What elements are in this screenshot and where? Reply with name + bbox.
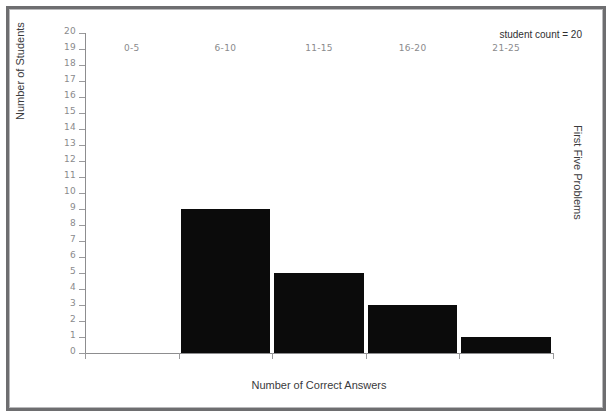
x-axis-category-label: 21-25 — [492, 43, 520, 53]
x-axis-category-label: 11-15 — [305, 43, 333, 53]
x-axis-category-label: 6-10 — [215, 43, 237, 53]
x-axis-tick — [179, 353, 180, 359]
y-axis-tick — [79, 177, 85, 178]
y-axis-tick — [79, 321, 85, 322]
y-axis-tick — [79, 241, 85, 242]
x-axis-line — [85, 353, 554, 354]
y-axis-tick — [79, 97, 85, 98]
y-axis-tick-label: 1 — [70, 330, 76, 340]
x-axis-category-label: 16-20 — [399, 43, 427, 53]
y-axis-tick-label: 0 — [70, 346, 76, 356]
bar — [368, 305, 458, 353]
y-axis-tick — [79, 209, 85, 210]
y-axis-tick — [79, 289, 85, 290]
y-axis-tick-label: 5 — [70, 266, 76, 276]
y-axis-tick — [79, 337, 85, 338]
y-axis-tick-label: 10 — [64, 186, 76, 196]
x-axis-tick — [272, 353, 273, 359]
y-axis-tick — [79, 113, 85, 114]
y-axis-tick-label: 18 — [64, 58, 76, 68]
x-axis-tick — [366, 353, 367, 359]
y-axis-tick-label: 7 — [70, 234, 76, 244]
y-axis-tick — [79, 49, 85, 50]
x-axis-category-label: 0-5 — [124, 43, 140, 53]
y-axis-tick-label: 16 — [64, 90, 76, 100]
bar — [461, 337, 551, 353]
y-axis-tick — [79, 145, 85, 146]
y-axis-title: Number of Students — [14, 0, 26, 120]
y-axis-tick — [79, 305, 85, 306]
y-axis-tick — [79, 65, 85, 66]
y-axis-tick-label: 4 — [70, 282, 76, 292]
bar — [274, 273, 364, 353]
y-axis-tick — [79, 161, 85, 162]
chart-page: student count = 20 First Five Problems N… — [0, 0, 612, 417]
x-axis-tick — [459, 353, 460, 359]
y-axis-tick-label: 9 — [70, 202, 76, 212]
bar — [181, 209, 271, 353]
y-axis-tick-label: 17 — [64, 74, 76, 84]
y-axis-tick-label: 20 — [64, 26, 76, 36]
y-axis-tick-label: 13 — [64, 138, 76, 148]
y-axis-tick — [79, 273, 85, 274]
y-axis-tick — [79, 193, 85, 194]
y-axis-tick-label: 12 — [64, 154, 76, 164]
y-axis-tick — [79, 129, 85, 130]
y-axis-tick-label: 2 — [70, 314, 76, 324]
y-axis-tick — [79, 257, 85, 258]
y-axis-tick — [79, 225, 85, 226]
x-axis-title: Number of Correct Answers — [85, 379, 553, 391]
y-axis-tick-label: 8 — [70, 218, 76, 228]
x-axis-tick — [85, 353, 86, 359]
y-axis-tick-label: 19 — [64, 42, 76, 52]
plot-area: 012345678910111213141516171819200-56-101… — [85, 33, 553, 353]
y-axis-tick-label: 11 — [64, 170, 76, 180]
x-axis-tick — [553, 353, 554, 359]
right-side-label: First Five Problems — [572, 125, 584, 220]
y-axis-tick-label: 15 — [64, 106, 76, 116]
y-axis-tick — [79, 81, 85, 82]
y-axis-tick-label: 3 — [70, 298, 76, 308]
y-axis-tick — [79, 33, 85, 34]
y-axis-tick-label: 6 — [70, 250, 76, 260]
y-axis-tick-label: 14 — [64, 122, 76, 132]
